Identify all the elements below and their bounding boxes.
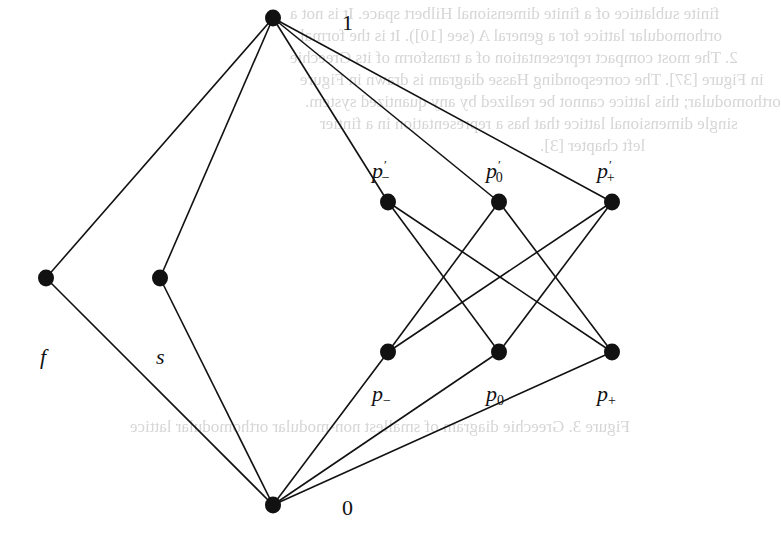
label-f: f: [40, 346, 46, 368]
diagram-edges: [46, 18, 612, 505]
node-pp: [604, 344, 620, 361]
node-p0: [491, 344, 507, 361]
label-bottom: 0: [342, 497, 353, 519]
label-p-minus: p−: [372, 383, 391, 408]
label-p-plus: p+: [597, 383, 616, 408]
label-p-zero: p0: [486, 383, 504, 408]
node-bottom: [265, 497, 281, 514]
edge-pp-bottom: [273, 352, 612, 505]
node-pm: [380, 344, 396, 361]
edge-s-bottom: [160, 278, 273, 505]
label-p-minus-prime: p′−: [372, 158, 390, 185]
label-s: s: [156, 346, 165, 368]
label-top: 1: [342, 12, 353, 34]
edge-top-pp_prime: [273, 18, 612, 202]
node-pp_prime: [604, 194, 620, 211]
edge-pm-bottom: [273, 352, 388, 505]
edge-top-pm_prime: [273, 18, 388, 202]
diagram-nodes: [38, 10, 620, 514]
node-f: [38, 270, 54, 287]
node-s: [152, 270, 168, 287]
node-p0_prime: [491, 194, 507, 211]
edge-p0-bottom: [273, 352, 499, 505]
node-pm_prime: [380, 194, 396, 211]
label-p-plus-prime: p′+: [597, 158, 615, 185]
edge-top-f: [46, 18, 273, 278]
edge-f-bottom: [46, 278, 273, 505]
label-p-zero-prime: p′0: [486, 158, 503, 185]
node-top: [265, 10, 281, 27]
edge-top-s: [160, 18, 273, 278]
